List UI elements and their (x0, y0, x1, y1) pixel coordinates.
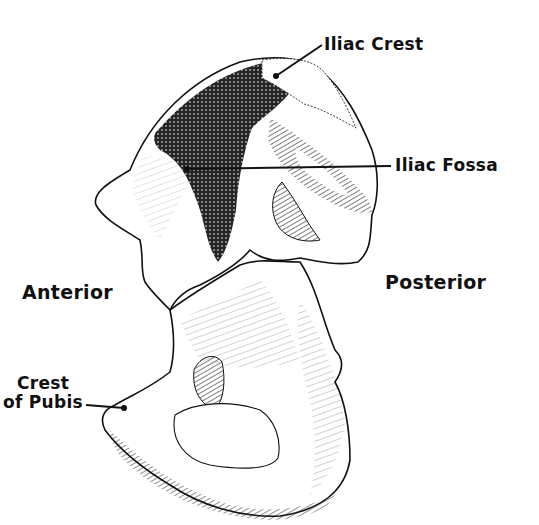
leader-dot-iliac-fossa (184, 166, 190, 172)
label-anterior: Anterior (22, 283, 113, 302)
label-iliac-crest: Iliac Crest (324, 35, 423, 54)
label-iliac-fossa: Iliac Fossa (395, 156, 498, 175)
label-crest-of-pubis-line2: of Pubis (2, 393, 84, 412)
leader-dot-iliac-crest (273, 73, 279, 79)
label-posterior: Posterior (385, 273, 486, 292)
label-crest-of-pubis-line1: Crest (2, 374, 84, 393)
label-crest-of-pubis: Crest of Pubis (2, 374, 84, 412)
acetabulum-body (102, 261, 350, 520)
leader-dot-crest-of-pubis (121, 405, 127, 411)
ilium-illustration (0, 0, 539, 525)
